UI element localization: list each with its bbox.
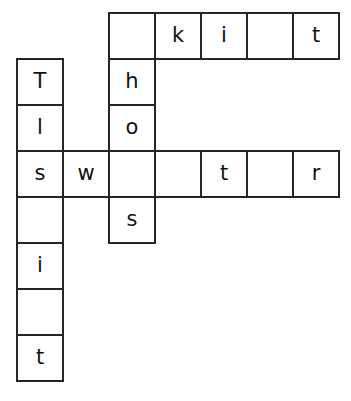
grid-cell-blank[interactable] xyxy=(154,150,202,198)
cell-letter: t xyxy=(220,163,228,184)
grid-cell-blank[interactable] xyxy=(16,288,64,336)
grid-cell-blank[interactable] xyxy=(16,196,64,244)
grid-cell-letter[interactable]: r xyxy=(292,150,340,198)
cell-letter: t xyxy=(36,347,44,368)
cell-letter: T xyxy=(34,71,47,92)
cell-letter: l xyxy=(37,117,43,138)
grid-cell-letter[interactable]: h xyxy=(108,58,156,106)
grid-cell-blank[interactable] xyxy=(108,12,156,60)
crossword-grid: kitThloswtrsit xyxy=(0,0,351,401)
cell-letter: s xyxy=(35,163,46,184)
cell-letter: w xyxy=(77,163,94,184)
grid-cell-blank[interactable] xyxy=(246,12,294,60)
grid-cell-letter[interactable]: i xyxy=(16,242,64,290)
grid-cell-letter[interactable]: t xyxy=(200,150,248,198)
cell-letter: r xyxy=(312,163,321,184)
cell-letter: o xyxy=(126,117,139,138)
grid-cell-letter[interactable]: s xyxy=(16,150,64,198)
grid-cell-letter[interactable]: o xyxy=(108,104,156,152)
grid-cell-letter[interactable]: i xyxy=(200,12,248,60)
grid-cell-letter[interactable]: t xyxy=(292,12,340,60)
grid-cell-blank[interactable] xyxy=(246,150,294,198)
cell-letter: t xyxy=(312,25,320,46)
grid-cell-letter[interactable]: t xyxy=(16,334,64,382)
cell-letter: h xyxy=(125,71,138,92)
cell-letter: s xyxy=(127,209,138,230)
grid-cell-letter[interactable]: T xyxy=(16,58,64,106)
grid-cell-letter[interactable]: s xyxy=(108,196,156,244)
grid-cell-letter[interactable]: l xyxy=(16,104,64,152)
cell-letter: i xyxy=(37,255,43,276)
grid-cell-letter[interactable]: w xyxy=(62,150,110,198)
grid-cell-letter[interactable]: k xyxy=(154,12,202,60)
cell-letter: k xyxy=(172,25,184,46)
grid-cell-blank[interactable] xyxy=(108,150,156,198)
cell-letter: i xyxy=(221,25,227,46)
